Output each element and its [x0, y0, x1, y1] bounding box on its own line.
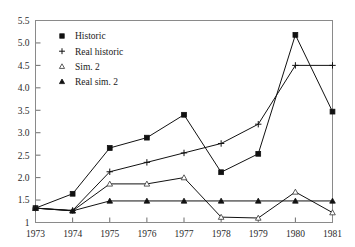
x-tick-label: 1973: [26, 229, 45, 239]
y-tick-label: 1: [25, 218, 30, 228]
x-tick-label: 1979: [249, 229, 268, 239]
y-tick-label: 3.5: [18, 106, 30, 116]
legend-label: Sim. 2: [75, 62, 100, 72]
legend-label: Real sim. 2: [75, 77, 118, 87]
y-tick-label: 5.5: [18, 16, 30, 26]
y-tick-label: 3.0: [18, 128, 30, 138]
y-tick-label: 2.0: [18, 173, 30, 183]
x-tick-label: 1980: [286, 229, 305, 239]
marker-square: [182, 112, 187, 117]
x-tick-label: 1978: [212, 229, 231, 239]
x-tick-label: 1976: [137, 229, 156, 239]
y-tick-label: 5.0: [18, 38, 30, 48]
x-tick-label: 1974: [63, 229, 82, 239]
marker-square: [60, 34, 64, 38]
chart-canvas: 11.52.02.53.03.54.04.55.05.5 19731974197…: [0, 0, 355, 247]
chart-background: [0, 0, 355, 247]
marker-square: [144, 135, 149, 140]
marker-square: [107, 146, 112, 151]
y-tick-label: 1.5: [18, 195, 30, 205]
marker-square: [330, 109, 335, 114]
x-tick-label: 1975: [100, 229, 119, 239]
y-tick-label: 4.0: [18, 83, 30, 93]
y-tick-label: 4.5: [18, 61, 30, 71]
marker-square: [293, 32, 298, 37]
x-tick-label: 1977: [175, 229, 194, 239]
legend-label: Historic: [75, 31, 106, 41]
x-tick-label: 1981: [323, 229, 342, 239]
marker-square: [256, 151, 261, 156]
y-tick-label: 2.5: [18, 151, 30, 161]
legend-label: Real historic: [75, 47, 123, 57]
marker-square: [70, 191, 75, 196]
line-chart: 11.52.02.53.03.54.04.55.05.5 19731974197…: [0, 0, 355, 247]
marker-square: [219, 170, 224, 175]
